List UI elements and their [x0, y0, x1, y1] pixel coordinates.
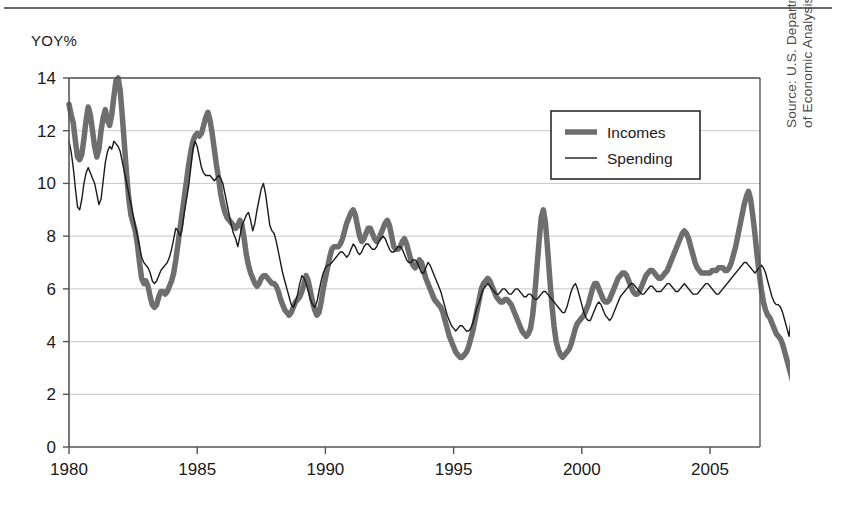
x-tick-label: 1985 — [178, 460, 216, 479]
y-tick-label: 14 — [37, 69, 56, 88]
legend-box — [551, 111, 700, 179]
legend-label-spending: Spending — [607, 150, 673, 167]
x-tick-label: 1990 — [306, 460, 344, 479]
y-tick-label: 4 — [47, 333, 56, 352]
y-axis-tick-labels: 02468101214 — [37, 69, 56, 457]
y-tick-label: 2 — [47, 385, 56, 404]
x-tick-label: 1995 — [435, 460, 473, 479]
y-tick-label: 12 — [37, 122, 56, 141]
y-tick-label: 8 — [47, 227, 56, 246]
x-axis-tick-labels: 198019851990199520002005 — [50, 460, 729, 479]
y-tick-label: 10 — [37, 174, 56, 193]
y-tick-label: 0 — [47, 438, 56, 457]
x-tick-label: 1980 — [50, 460, 88, 479]
x-tick-label: 2000 — [563, 460, 601, 479]
legend-label-incomes: Incomes — [607, 124, 666, 141]
y-tick-label: 6 — [47, 280, 56, 299]
chart-svg: 198019851990199520002005 02468101214 Inc… — [0, 0, 790, 500]
x-tick-label: 2005 — [691, 460, 729, 479]
line-chart: 198019851990199520002005 02468101214 Inc… — [0, 0, 790, 500]
chart-legend: IncomesSpending — [551, 111, 700, 179]
